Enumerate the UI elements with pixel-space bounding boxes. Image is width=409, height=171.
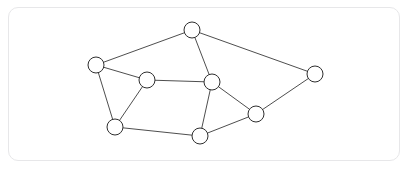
graph-edge xyxy=(155,80,204,82)
graph-node[interactable] xyxy=(88,57,104,73)
graph-edge xyxy=(218,87,249,110)
graph-edge xyxy=(120,87,143,121)
graph-edge xyxy=(263,78,309,109)
graph-edge xyxy=(200,33,308,72)
graph-edge xyxy=(195,37,209,74)
graph-edge xyxy=(207,117,248,133)
graph-node[interactable] xyxy=(184,22,200,38)
graph-edge xyxy=(104,67,140,77)
node-layer xyxy=(88,22,323,144)
graph-node[interactable] xyxy=(192,128,208,144)
graph-node[interactable] xyxy=(248,106,264,122)
graph-node[interactable] xyxy=(204,74,220,90)
graph-edge xyxy=(123,128,192,135)
canvas-root xyxy=(0,0,409,171)
graph-diagram xyxy=(0,0,409,171)
graph-node[interactable] xyxy=(107,119,123,135)
graph-edge xyxy=(98,73,112,120)
graph-edge xyxy=(104,33,185,63)
graph-node[interactable] xyxy=(307,66,323,82)
graph-edge xyxy=(202,90,211,128)
graph-node[interactable] xyxy=(139,72,155,88)
edge-layer xyxy=(98,33,308,135)
